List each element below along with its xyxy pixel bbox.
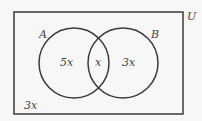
intersection-value: x — [95, 56, 102, 69]
universe-label: U — [187, 10, 197, 23]
a-only-value: 5x — [60, 56, 74, 69]
set-a-label: A — [38, 28, 47, 41]
set-b-label: B — [150, 28, 159, 41]
venn-diagram: U A B 5x x 3x 3x — [0, 0, 202, 121]
outside-value: 3x — [24, 99, 38, 112]
b-only-value: 3x — [122, 56, 136, 69]
